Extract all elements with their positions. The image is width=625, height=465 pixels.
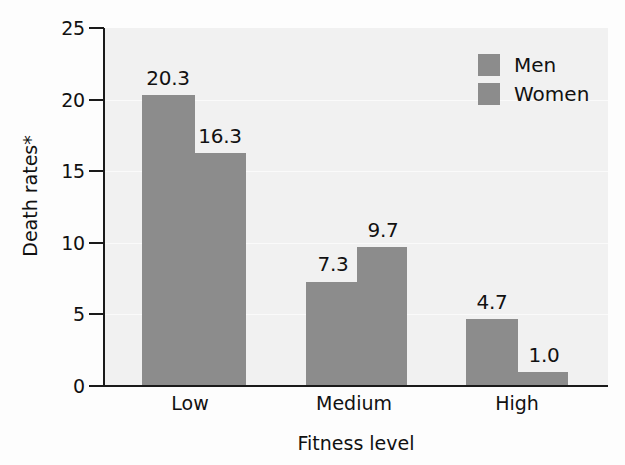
category-label-high: High: [467, 392, 567, 414]
legend-item-women: Women: [478, 79, 589, 108]
bar-value-low-men: 20.3: [118, 66, 218, 90]
legend-label-men: Men: [514, 53, 556, 77]
y-tick-mark-25: [89, 27, 104, 29]
x-axis-title: Fitness level: [104, 432, 608, 454]
bar-value-high-women: 1.0: [494, 343, 594, 367]
category-label-low: Low: [140, 392, 240, 414]
y-tick-mark-0: [89, 385, 104, 387]
bar-value-low-women: 16.3: [170, 124, 270, 148]
y-tick-mark-5: [89, 313, 104, 315]
bar-high-women: [518, 372, 568, 386]
y-tick-label-25: 25: [41, 17, 85, 39]
legend-swatch-women: [478, 83, 500, 105]
y-tick-label-5: 5: [41, 303, 85, 325]
y-axis-spine: [103, 28, 105, 387]
bar-value-high-men: 4.7: [442, 290, 542, 314]
y-tick-label-10: 10: [41, 232, 85, 254]
y-tick-label-0: 0: [41, 375, 85, 397]
y-axis-title: Death rates*: [19, 96, 41, 296]
category-label-medium: Medium: [304, 392, 404, 414]
y-tick-label-15: 15: [41, 160, 85, 182]
y-tick-mark-15: [89, 170, 104, 172]
y-tick-mark-10: [89, 242, 104, 244]
legend: Men Women: [478, 50, 589, 108]
x-axis-spine: [89, 385, 608, 387]
bar-value-medium-men: 7.3: [283, 252, 383, 276]
bar-value-medium-women: 9.7: [333, 218, 433, 242]
bar-medium-men: [306, 282, 357, 387]
bar-low-women: [195, 153, 246, 386]
bar-chart-figure: 20.3 16.3 7.3 9.7 4.7 1.0 0 5 10 15 20 2…: [0, 0, 625, 465]
y-tick-label-20: 20: [41, 89, 85, 111]
legend-swatch-men: [478, 54, 500, 76]
legend-item-men: Men: [478, 50, 589, 79]
y-tick-mark-20: [89, 99, 104, 101]
legend-label-women: Women: [514, 82, 589, 106]
